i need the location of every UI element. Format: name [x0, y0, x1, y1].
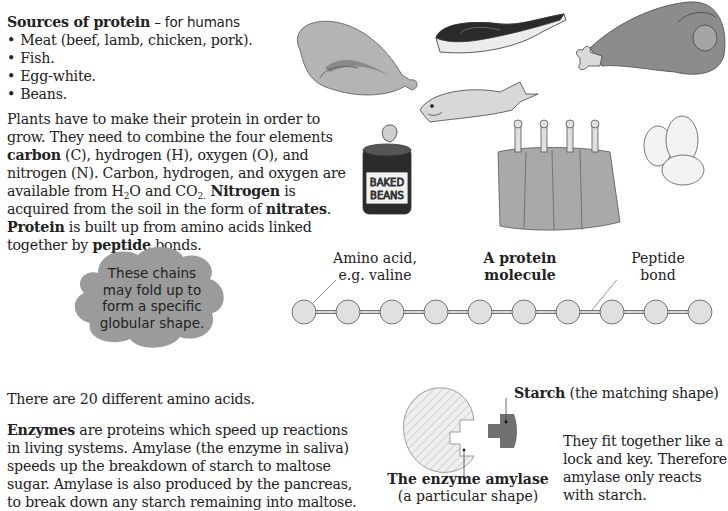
list-item: Meat (beef, lamb, chicken, pork). — [7, 31, 297, 49]
baked-beans-can-icon: BAKED BEANS — [363, 125, 411, 214]
amino-acid-label: Amino acid, e.g. valine — [320, 250, 430, 284]
list-item: Egg-white. — [7, 67, 297, 85]
enzyme-amylase-shape — [404, 388, 474, 473]
sources-list: Meat (beef, lamb, chicken, pork). Fish. … — [7, 31, 297, 103]
enzyme-amylase-label: The enzyme amylase (a particular shape) — [378, 471, 558, 505]
svg-text:BEANS: BEANS — [370, 190, 404, 201]
lamb-rack-icon — [498, 120, 620, 230]
eggs-icon — [644, 116, 704, 185]
protein-molecule-title: A protein molecule — [470, 250, 570, 284]
starch-shape — [488, 414, 517, 448]
sources-title: Sources of protein – for humans — [7, 13, 297, 31]
food-illustrations: BAKED BEANS — [280, 0, 728, 240]
list-item: Fish. — [7, 49, 297, 67]
amino-acid-count-text: There are 20 different amino acids. — [7, 390, 255, 408]
chicken-icon — [297, 21, 417, 95]
salmon-steak-icon — [436, 14, 566, 53]
list-item: Beans. — [7, 85, 297, 103]
enzymes-paragraph: Enzymes are proteins which speed up reac… — [7, 421, 357, 511]
starch-label: Starch (the matching shape) — [514, 384, 719, 402]
sources-section: Sources of protein – for humans Meat (be… — [7, 13, 297, 103]
cloud-text: These chains may fold up to form a speci… — [90, 265, 214, 331]
peptide-bond-label: Peptide bond — [608, 250, 708, 284]
fish-icon — [420, 82, 538, 122]
ham-leg-icon — [576, 2, 725, 74]
lock-key-text: They fit together like a lock and key. T… — [563, 432, 728, 504]
protein-chain-diagram — [280, 280, 728, 340]
lock-key-diagram — [400, 380, 520, 480]
svg-text:BAKED: BAKED — [370, 177, 405, 188]
